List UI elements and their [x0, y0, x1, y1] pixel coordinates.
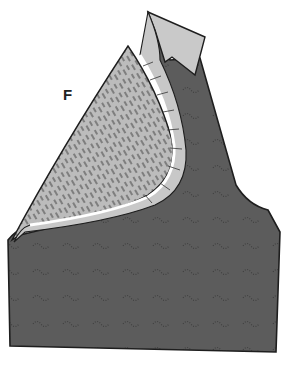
garment-illustration	[0, 0, 286, 370]
figure-label: F	[63, 86, 72, 103]
sewing-diagram: F	[0, 0, 286, 370]
